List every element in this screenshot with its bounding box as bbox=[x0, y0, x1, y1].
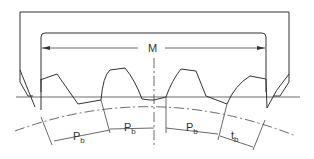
pitch-label-2: Pb bbox=[124, 121, 136, 136]
gear-tooth-3 bbox=[154, 69, 227, 104]
ext-line-4 bbox=[218, 104, 227, 140]
span-label-m: M bbox=[148, 42, 157, 54]
arrow-left-icon bbox=[42, 46, 50, 50]
base-circle-arc bbox=[15, 107, 296, 136]
thickness-label: tb bbox=[231, 129, 239, 144]
gear-tooth-1 bbox=[20, 70, 101, 107]
caliper-outer-frame bbox=[20, 12, 289, 96]
gear-span-diagram: M Pb Pb Pb tb bbox=[0, 0, 314, 159]
ext-line-5 bbox=[253, 120, 265, 150]
pitch-label-1: Pb bbox=[73, 130, 85, 145]
ext-line-2 bbox=[101, 100, 110, 133]
gear-tooth-2 bbox=[101, 68, 154, 100]
gear-tooth-4 bbox=[227, 74, 289, 108]
caliper-left-jaw bbox=[20, 82, 33, 96]
pitch-label-3: Pb bbox=[186, 121, 198, 136]
arrow-right-icon bbox=[257, 46, 265, 50]
